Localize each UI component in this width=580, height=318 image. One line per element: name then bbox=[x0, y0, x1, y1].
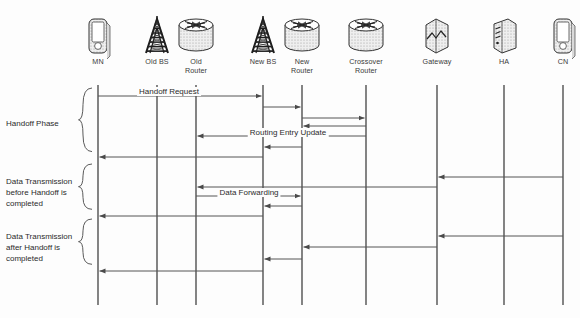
phase-label-handoff: Handoff Phase bbox=[6, 118, 98, 129]
node-label-cn: CN bbox=[558, 58, 569, 67]
message-label-handoff-request: Handoff Request bbox=[137, 87, 201, 96]
gateway-box-icon bbox=[426, 19, 448, 53]
node-label-old_rt: Old Router bbox=[185, 58, 207, 75]
antenna-tower-icon bbox=[146, 16, 168, 53]
node-label-old_bs: Old BS bbox=[145, 58, 168, 67]
node-label-ha: HA bbox=[499, 58, 509, 67]
phase-label-before_handoff: Data Transmission before Handoff is comp… bbox=[6, 176, 98, 209]
message-label-data-forwarding: Data Forwarding bbox=[217, 188, 280, 197]
router-cylinder-icon bbox=[179, 19, 213, 51]
mobile-phone-icon bbox=[554, 19, 575, 59]
phase-label-after_handoff: Data Transmission after Handoff is compl… bbox=[6, 231, 98, 264]
sequence-diagram-svg bbox=[0, 0, 580, 318]
antenna-tower-icon bbox=[252, 16, 274, 53]
node-icons-layer bbox=[89, 16, 575, 59]
router-cylinder-icon bbox=[349, 19, 383, 51]
messages-layer bbox=[98, 96, 563, 271]
node-label-gateway: Gateway bbox=[422, 58, 451, 67]
node-label-cross_rt: Crossover Router bbox=[349, 58, 383, 75]
server-icon bbox=[494, 19, 516, 53]
node-label-new_bs: New BS bbox=[250, 58, 277, 67]
router-cylinder-icon bbox=[285, 19, 319, 51]
message-label-routing-entry-update: Routing Entry Update bbox=[248, 128, 329, 137]
node-label-mn: MN bbox=[92, 58, 103, 67]
node-label-new_rt: New Router bbox=[291, 58, 313, 75]
diagram-canvas: MNOld BSOld RouterNew BSNew RouterCrosso… bbox=[0, 0, 580, 318]
mobile-phone-icon bbox=[89, 19, 110, 59]
